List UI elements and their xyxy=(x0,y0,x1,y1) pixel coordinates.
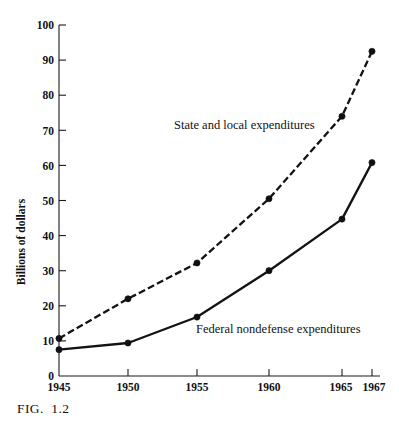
data-point xyxy=(125,296,131,302)
x-tick-label-1950: 1950 xyxy=(117,381,140,393)
data-point xyxy=(266,196,272,202)
data-point xyxy=(125,340,131,346)
data-point xyxy=(339,113,345,119)
y-axis-ticks xyxy=(59,25,66,341)
figure-container: 100 90 80 70 60 50 40 30 20 10 0 Billion… xyxy=(0,0,399,432)
x-tick-label-1960: 1960 xyxy=(258,381,281,393)
x-tick-label-1955: 1955 xyxy=(186,381,209,393)
y-tick-label-80: 80 xyxy=(43,89,55,101)
series-line-state-and-local xyxy=(59,51,372,338)
data-point xyxy=(56,335,62,341)
data-point xyxy=(56,347,62,353)
y-tick-label-60: 60 xyxy=(43,160,55,172)
y-tick-label-10: 10 xyxy=(43,335,55,347)
y-tick-label-90: 90 xyxy=(43,54,55,66)
data-point xyxy=(369,48,375,54)
y-axis-title: Billions of dollars xyxy=(15,198,27,285)
x-tick-label-1965: 1965 xyxy=(330,381,353,393)
x-axis-ticks xyxy=(128,369,372,376)
y-tick-label-70: 70 xyxy=(43,125,55,137)
data-point xyxy=(339,216,345,222)
data-point xyxy=(194,314,200,320)
series-markers-state-and-local xyxy=(56,48,375,341)
figure-caption: FIG. 1.2 xyxy=(17,401,69,417)
data-point xyxy=(369,159,375,165)
y-tick-label-100: 100 xyxy=(37,19,55,31)
x-axis-tick-labels: 1945 1950 1955 1960 1965 1967 xyxy=(48,381,386,393)
y-axis-tick-labels: 100 90 80 70 60 50 40 30 20 10 0 xyxy=(37,19,55,382)
y-tick-label-40: 40 xyxy=(43,230,55,242)
data-point xyxy=(194,260,200,266)
data-point xyxy=(266,268,272,274)
y-tick-label-20: 20 xyxy=(43,300,55,312)
line-chart: 100 90 80 70 60 50 40 30 20 10 0 Billion… xyxy=(0,0,399,432)
y-tick-label-30: 30 xyxy=(43,265,55,277)
x-tick-label-1967: 1967 xyxy=(363,381,386,393)
series-annotation-federal-nondefense: Federal nondefense expenditures xyxy=(196,322,361,336)
series-annotation-state-and-local: State and local expenditures xyxy=(174,118,315,132)
y-tick-label-50: 50 xyxy=(43,195,55,207)
x-tick-label-1945: 1945 xyxy=(48,381,71,393)
